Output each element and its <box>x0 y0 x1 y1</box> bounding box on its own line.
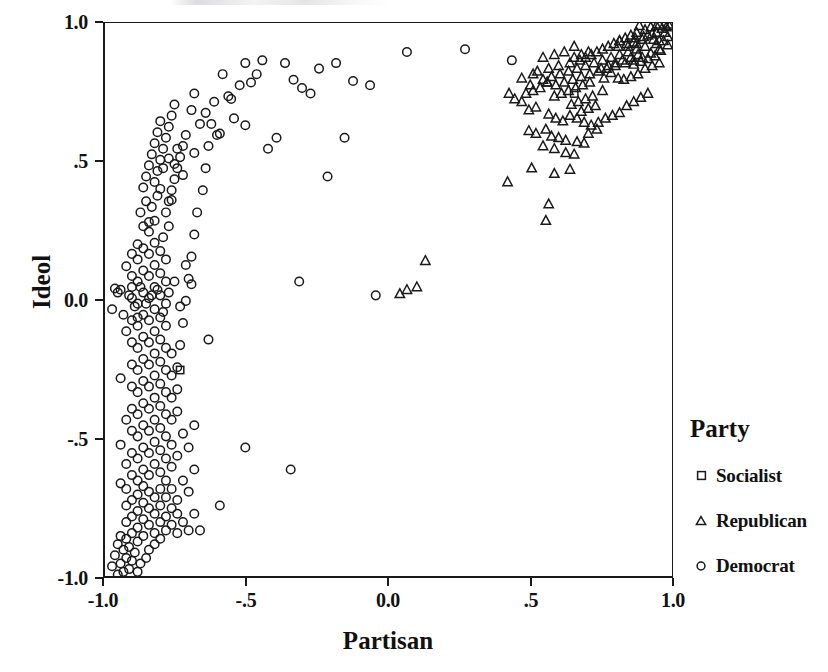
data-point <box>139 532 148 541</box>
data-point <box>332 59 341 68</box>
data-point <box>176 341 185 350</box>
x-tick-mark <box>387 578 389 586</box>
data-point <box>142 554 151 563</box>
data-point <box>128 449 137 458</box>
plot-area <box>103 22 673 578</box>
data-point <box>190 465 199 474</box>
data-point <box>150 239 159 248</box>
scan-artifact <box>170 0 390 5</box>
data-point <box>150 493 159 502</box>
data-point <box>184 443 193 452</box>
data-point <box>116 479 125 488</box>
data-point <box>286 465 295 474</box>
data-point <box>170 175 179 184</box>
data-point <box>564 66 573 75</box>
data-point <box>560 77 569 86</box>
data-point <box>167 393 176 402</box>
data-point <box>133 568 142 576</box>
data-point <box>190 89 199 98</box>
data-point <box>150 261 159 270</box>
data-point <box>122 327 131 336</box>
scatter-plot-figure: 1.0 .5 0.0 -.5 -1.0 -1.0 -.5 0.0 .5 1.0 … <box>0 0 828 672</box>
data-point <box>504 88 513 97</box>
data-point <box>230 114 239 123</box>
data-point <box>179 429 188 438</box>
data-point <box>139 443 148 452</box>
data-point <box>165 222 174 231</box>
data-point <box>216 129 225 138</box>
data-point <box>139 421 148 430</box>
data-point <box>538 141 547 150</box>
data-point <box>167 521 176 530</box>
data-point <box>150 438 159 447</box>
data-point <box>323 172 332 181</box>
data-point <box>162 299 171 308</box>
data-point <box>136 208 145 217</box>
x-tick-mark <box>245 578 247 586</box>
data-point <box>201 109 210 118</box>
data-point <box>371 291 380 300</box>
data-point <box>148 150 157 159</box>
data-point <box>150 416 159 425</box>
y-tick-label: -1.0 <box>30 568 88 588</box>
data-point <box>142 197 151 206</box>
series-socialist <box>176 90 577 374</box>
data-point <box>298 84 307 93</box>
legend-item-republican[interactable]: Republican <box>690 510 828 531</box>
data-point <box>111 551 120 560</box>
data-point <box>218 70 227 79</box>
data-point <box>145 161 154 170</box>
data-point <box>167 463 176 472</box>
x-axis-title: Partisan <box>103 627 673 655</box>
y-tick-mark <box>95 299 103 301</box>
data-point <box>133 507 142 516</box>
y-tick-mark <box>95 160 103 162</box>
data-point <box>156 468 165 477</box>
data-point <box>538 52 547 61</box>
data-point <box>235 81 244 90</box>
data-point <box>167 111 176 120</box>
data-point <box>139 333 148 342</box>
data-point <box>550 50 559 59</box>
data-point <box>128 360 137 369</box>
data-point <box>565 164 574 173</box>
data-point <box>550 144 559 153</box>
data-point <box>162 277 171 286</box>
data-point <box>544 199 553 208</box>
data-point <box>554 61 563 70</box>
data-point <box>156 335 165 344</box>
data-point <box>165 122 174 131</box>
data-point <box>162 133 171 142</box>
legend-label-republican: Republican <box>712 510 807 532</box>
data-point <box>176 302 185 311</box>
x-tick-mark <box>102 578 104 586</box>
data-point <box>517 73 526 82</box>
data-point <box>156 357 165 366</box>
data-point <box>289 75 298 84</box>
data-point <box>272 133 281 142</box>
data-point <box>643 88 652 97</box>
data-point <box>179 476 188 485</box>
series-republican <box>395 23 672 298</box>
data-point <box>179 518 188 527</box>
data-point <box>179 319 188 328</box>
data-point <box>156 269 165 278</box>
data-point <box>167 186 176 195</box>
data-point <box>561 148 570 157</box>
legend-item-socialist[interactable]: Socialist <box>690 465 828 486</box>
data-point <box>541 124 550 133</box>
data-point <box>165 288 174 297</box>
data-point <box>201 164 210 173</box>
data-point <box>193 208 202 217</box>
data-point <box>167 196 176 205</box>
legend-item-democrat[interactable]: Democrat <box>690 555 828 576</box>
data-point <box>122 460 131 469</box>
data-point <box>570 41 579 50</box>
data-point <box>581 61 590 70</box>
data-point <box>150 216 159 225</box>
data-point <box>315 64 324 73</box>
data-point <box>204 335 213 344</box>
data-point <box>139 515 148 524</box>
data-point <box>264 145 273 154</box>
data-point <box>241 121 250 130</box>
